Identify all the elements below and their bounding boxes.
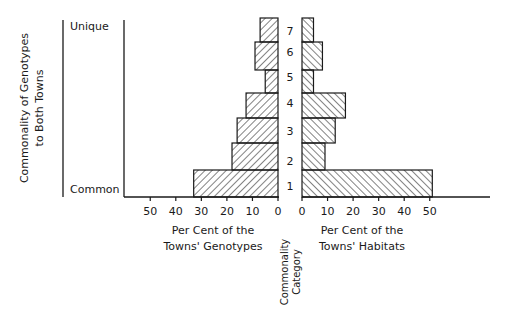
genotype-bars xyxy=(194,18,278,197)
right-tick-label: 0 xyxy=(299,205,306,218)
category-axis-label-line1: Commonality xyxy=(279,239,290,306)
genotype-bar-cat-6 xyxy=(255,42,278,70)
genotype-bar-cat-1 xyxy=(194,170,278,197)
left-xlabel-line2: Towns' Genotypes xyxy=(162,240,262,253)
x-ticks: 5040302010001020304050 xyxy=(143,197,437,218)
left-tick-label: 10 xyxy=(245,205,259,218)
left-tick-label: 20 xyxy=(220,205,234,218)
left-tick-label: 40 xyxy=(169,205,183,218)
right-tick-label: 20 xyxy=(346,205,360,218)
genotype-bar-cat-2 xyxy=(232,143,278,170)
y-outer-label-line2: to Both Towns xyxy=(33,69,46,146)
category-label: 5 xyxy=(287,71,294,84)
habitat-bar-cat-6 xyxy=(302,42,322,70)
left-xlabel-line1: Per Cent of the xyxy=(172,224,255,237)
left-tick-label: 30 xyxy=(194,205,208,218)
label-common: Common xyxy=(70,183,120,196)
left-tick-label: 50 xyxy=(143,205,157,218)
right-xlabel-line1: Per Cent of the xyxy=(321,224,404,237)
right-tick-label: 50 xyxy=(423,205,437,218)
category-label: 4 xyxy=(287,97,294,110)
left-tick-label: 0 xyxy=(275,205,282,218)
category-label: 2 xyxy=(287,155,294,168)
habitat-bar-cat-5 xyxy=(302,70,313,93)
habitat-bar-cat-1 xyxy=(302,170,432,197)
right-tick-label: 10 xyxy=(321,205,335,218)
category-label: 3 xyxy=(287,125,294,138)
commonality-chart: Commonality of Genotypes to Both Towns U… xyxy=(0,0,511,321)
y-outer-label-line1: Commonality of Genotypes xyxy=(18,33,31,183)
category-label: 6 xyxy=(287,46,294,59)
category-label: 7 xyxy=(287,25,294,38)
right-xlabel-line2: Towns' Habitats xyxy=(318,240,405,253)
genotype-bar-cat-7 xyxy=(260,18,278,42)
genotype-bar-cat-5 xyxy=(265,70,278,93)
habitat-bar-cat-3 xyxy=(302,118,335,143)
category-label: 1 xyxy=(287,180,294,193)
right-tick-label: 40 xyxy=(397,205,411,218)
habitat-bar-cat-2 xyxy=(302,143,325,170)
habitat-bar-cat-4 xyxy=(302,93,345,118)
right-tick-label: 30 xyxy=(372,205,386,218)
genotype-bar-cat-4 xyxy=(246,93,278,118)
category-labels: 1234567 xyxy=(287,25,294,193)
genotype-bar-cat-3 xyxy=(237,118,278,143)
habitat-bar-cat-7 xyxy=(302,18,313,42)
label-unique: Unique xyxy=(70,20,109,33)
category-axis-label-line2: Category xyxy=(291,249,302,295)
habitat-bars xyxy=(302,18,432,197)
